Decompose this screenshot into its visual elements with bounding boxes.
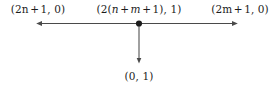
math-figure: (2n+1, 0) (2(n+m+1), 1) (2m+1, 0) (0, 1) [0, 0, 280, 87]
label-left-text: (2n+1, 0) [11, 3, 65, 15]
label-center-vertex: (2(n+m+1), 1) [97, 3, 182, 16]
label-bottom-text: (0, 1) [125, 70, 154, 82]
label-bottom-endpoint: (0, 1) [125, 70, 154, 83]
vertex-point-marker [136, 20, 142, 26]
label-right-endpoint: (2m+1, 0) [211, 3, 269, 16]
label-left-endpoint: (2n+1, 0) [11, 3, 65, 16]
label-right-text: (2m+1, 0) [211, 3, 269, 15]
label-center-text: (2(n+m+1), 1) [97, 3, 182, 15]
